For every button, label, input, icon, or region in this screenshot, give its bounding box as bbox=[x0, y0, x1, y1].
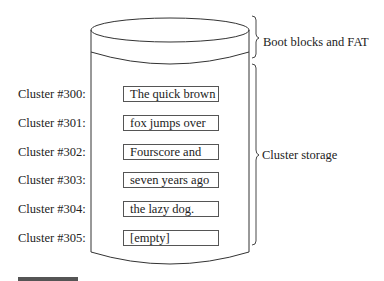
cluster-box-302: Fourscore and bbox=[123, 144, 219, 160]
cylinder-divider-arc bbox=[91, 52, 249, 64]
cluster-label-305: Cluster #305: bbox=[18, 231, 86, 245]
cluster-box-300: The quick brown bbox=[123, 86, 219, 102]
cluster-label-300: Cluster #300: bbox=[18, 87, 86, 101]
brace-cluster-storage bbox=[252, 64, 259, 245]
cylinder-bottom-arc bbox=[91, 252, 249, 264]
cylinder-top-ellipse bbox=[91, 18, 249, 42]
cluster-label-303: Cluster #303: bbox=[18, 173, 86, 187]
footer-bar bbox=[18, 277, 78, 281]
cluster-box-305: [empty] bbox=[123, 230, 219, 246]
cluster-box-301: fox jumps over bbox=[123, 115, 219, 131]
cluster-label-301: Cluster #301: bbox=[18, 116, 86, 130]
brace-boot-blocks bbox=[252, 16, 259, 58]
cluster-storage-label: Cluster storage bbox=[262, 148, 337, 162]
cluster-label-302: Cluster #302: bbox=[18, 145, 86, 159]
cluster-box-304: the lazy dog. bbox=[123, 201, 219, 217]
cluster-label-304: Cluster #304: bbox=[18, 202, 86, 216]
boot-blocks-label: Boot blocks and FAT bbox=[263, 35, 369, 49]
cluster-box-303: seven years ago bbox=[123, 172, 219, 188]
